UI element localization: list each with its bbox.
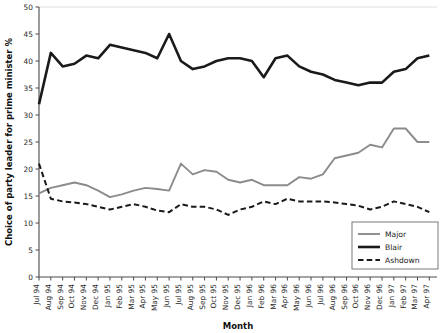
legend-label-ashdown: Ashdown	[385, 256, 420, 265]
x-tick-label: Oct 94	[67, 284, 76, 309]
x-tick-label: Apr 97	[422, 284, 431, 309]
x-tick-label: Oct 96	[351, 284, 360, 309]
y-axis-title: Choice of party leader for prime ministe…	[4, 37, 14, 246]
line-chart: 05101520253035404550 Jul 94Aug 94Sep 94O…	[0, 0, 444, 333]
x-tick-label: Mar 95	[127, 284, 136, 310]
y-tick-label: 35	[24, 84, 34, 93]
x-tick-label: Mar 96	[269, 284, 278, 310]
x-tick-label: Feb 97	[399, 284, 408, 309]
x-tick-label: Apr 96	[280, 284, 289, 309]
x-tick-label: Jun 95	[162, 284, 171, 309]
x-tick-label: Jul 94	[32, 284, 41, 306]
y-tick-label: 50	[24, 3, 34, 12]
x-tick-label: Jan 95	[103, 284, 112, 308]
x-tick-label: Nov 94	[79, 284, 88, 310]
x-tick-label: Nov 95	[221, 284, 230, 310]
legend-label-major: Major	[385, 230, 407, 239]
chart-container: 05101520253035404550 Jul 94Aug 94Sep 94O…	[0, 0, 444, 333]
chart-background	[0, 0, 444, 333]
x-tick-label: May 95	[150, 284, 159, 311]
legend-label-blair: Blair	[385, 243, 403, 252]
x-tick-label: Jun 96	[304, 284, 313, 309]
x-tick-label: Aug 94	[44, 284, 53, 310]
x-tick-label: Jan 97	[387, 284, 396, 308]
x-tick-label: Dec 94	[91, 284, 100, 310]
x-tick-label: Jul 96	[316, 284, 325, 306]
x-tick-label: Sep 96	[340, 284, 349, 310]
x-tick-label: Apr 95	[138, 284, 147, 309]
x-tick-label: Jul 95	[174, 284, 183, 306]
y-tick-label: 45	[24, 30, 34, 39]
x-tick-label: Jan 96	[245, 284, 254, 308]
x-tick-label: Sep 94	[56, 284, 65, 310]
x-tick-label: Dec 96	[375, 284, 384, 310]
y-tick-label: 40	[24, 57, 34, 66]
x-tick-label: Aug 96	[328, 284, 337, 310]
x-tick-label: Oct 95	[209, 284, 218, 309]
x-tick-label: Dec 95	[233, 284, 242, 310]
x-tick-label: Mar 97	[410, 284, 419, 310]
x-tick-label: May 96	[292, 284, 301, 311]
y-tick-label: 5	[28, 246, 33, 255]
y-tick-label: 30	[24, 111, 34, 120]
x-tick-label: Feb 95	[115, 284, 124, 309]
y-tick-label: 20	[24, 165, 34, 174]
y-tick-label: 25	[24, 138, 34, 147]
y-tick-label: 0	[28, 273, 33, 282]
x-axis-title: Month	[223, 321, 253, 331]
y-tick-label: 10	[24, 219, 34, 228]
x-tick-label: Nov 96	[363, 284, 372, 310]
chart-legend: MajorBlairAshdown	[352, 222, 438, 269]
x-tick-label: Aug 95	[186, 284, 195, 310]
y-tick-label: 15	[24, 192, 34, 201]
x-tick-label: Sep 95	[198, 284, 207, 310]
x-tick-label: Feb 96	[257, 284, 266, 309]
